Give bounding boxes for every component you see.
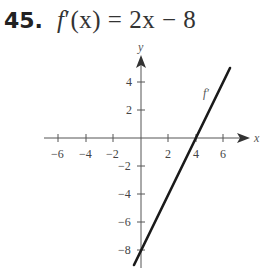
- svg-text:−2: −2: [106, 147, 119, 161]
- svg-text:2: 2: [126, 103, 132, 117]
- series-line-f-prime: [134, 68, 230, 265]
- svg-text:4: 4: [193, 147, 199, 161]
- svg-text:−6: −6: [118, 215, 131, 229]
- y-axis-label: y: [137, 40, 144, 54]
- svg-text:−6: −6: [51, 147, 64, 161]
- x-axis-label: x: [253, 131, 260, 145]
- svg-text:2: 2: [165, 147, 171, 161]
- svg-text:−4: −4: [118, 187, 131, 201]
- svg-text:6: 6: [220, 147, 226, 161]
- svg-text:4: 4: [126, 75, 132, 89]
- series-label-f-prime: f′: [203, 86, 209, 100]
- svg-text:−4: −4: [79, 147, 92, 161]
- chart: x y −6 −4 −2 2 4 6 4 2 −2 −4 −6 −8 f′: [0, 0, 268, 274]
- x-tick-labels: −6 −4 −2 2 4 6: [51, 147, 226, 161]
- svg-text:−8: −8: [118, 243, 131, 257]
- y-tick-labels: 4 2 −2 −4 −6 −8: [118, 75, 132, 257]
- svg-text:−2: −2: [118, 159, 131, 173]
